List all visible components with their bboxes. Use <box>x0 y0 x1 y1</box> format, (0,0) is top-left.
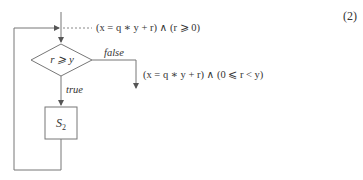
true-label: true <box>66 84 83 96</box>
precondition-label: (x = q ∗ y + r) ∧ (r ⩾ 0) <box>96 22 200 34</box>
statement-subscript: 2 <box>62 123 66 132</box>
decision-condition: r ⩾ y <box>47 53 77 66</box>
false-label: false <box>104 47 124 59</box>
false-branch-line <box>92 60 136 88</box>
loop-back-line <box>14 28 61 170</box>
statement-label: S2 <box>45 116 77 132</box>
equation-number: (2) <box>343 9 357 24</box>
postcondition-label: (x = q ∗ y + r) ∧ (0 ⩽ r < y) <box>143 69 263 81</box>
